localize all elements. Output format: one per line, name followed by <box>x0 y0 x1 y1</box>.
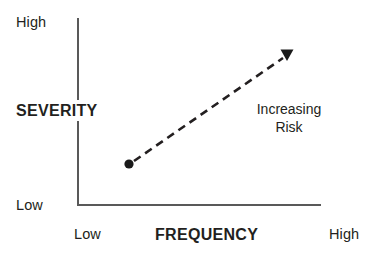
increasing-risk-annotation-line2: Risk <box>252 118 326 136</box>
x-axis-low-label: Low <box>74 227 101 242</box>
y-axis-high-label: High <box>16 15 46 30</box>
low-risk-point-marker <box>124 159 133 168</box>
risk-matrix-chart: High Low SEVERITY Low High FREQUENCY Inc… <box>0 0 365 257</box>
x-axis-high-label: High <box>329 227 359 242</box>
x-axis-title: FREQUENCY <box>155 227 258 243</box>
increasing-risk-annotation-line1: Increasing <box>252 100 326 118</box>
y-axis-title: SEVERITY <box>16 101 102 121</box>
increasing-risk-annotation: Increasing Risk <box>252 100 326 137</box>
y-axis-low-label: Low <box>16 198 43 213</box>
